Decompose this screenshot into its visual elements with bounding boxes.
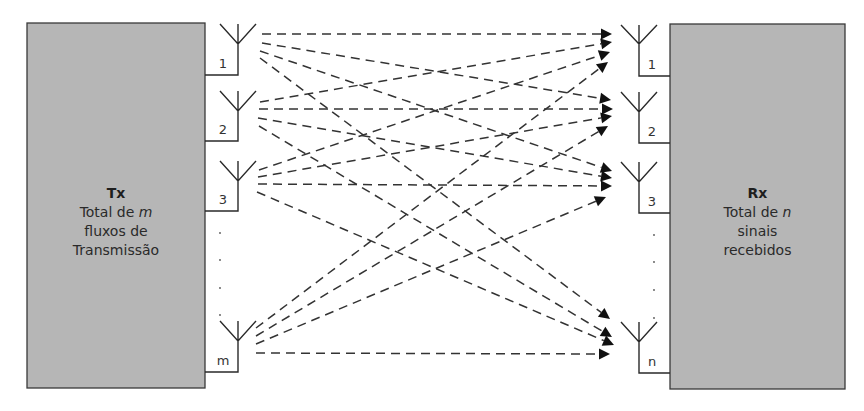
signal-path-txm-rx3: [256, 201, 596, 344]
antenna-label: 1: [648, 57, 656, 72]
signal-path-txm-rxn: [256, 353, 599, 354]
antenna-label: m: [217, 353, 230, 368]
arrowhead-icon: [600, 112, 612, 123]
rx-description-line-3: recebidos: [724, 242, 792, 258]
signal-path-tx3-rxn: [257, 192, 604, 341]
antenna-label: 2: [219, 122, 227, 137]
rx-antenna-n: n: [621, 322, 670, 373]
rx-antenna-1: 1: [621, 25, 670, 76]
tx-antenna-m: m: [205, 321, 256, 372]
rx-description-line-1: Total de n: [723, 204, 792, 220]
signal-path-txm-rx1: [256, 69, 599, 328]
antenna-label: 3: [648, 194, 656, 209]
signal-path-tx3-rx3: [258, 184, 601, 186]
arrowhead-icon: [600, 171, 612, 182]
ellipsis-dot: [653, 261, 655, 263]
arrowhead-icon: [600, 38, 612, 49]
rx-antenna-3: 3: [621, 162, 670, 213]
ellipsis-dot: [653, 289, 655, 291]
tx-antenna-3: 3: [205, 161, 256, 211]
arrowhead-icon: [599, 93, 611, 104]
receiver: Rx Total de n sinais recebidos 123n: [621, 24, 845, 389]
antenna-label: 3: [219, 192, 227, 207]
arrowhead-icon: [599, 348, 610, 359]
ellipsis-dot: [653, 234, 655, 236]
arrowhead-icon: [598, 50, 610, 60]
ellipsis-dot: [219, 314, 221, 316]
rx-description-line-2: sinais: [738, 223, 778, 239]
signal-path-tx1-rx2: [262, 43, 600, 98]
tx-antenna-1: 1: [205, 24, 256, 75]
tx-title: Tx: [107, 185, 126, 201]
arrowhead-icon: [601, 29, 612, 40]
arrowhead-icon: [602, 104, 613, 115]
ellipsis-dot: [219, 259, 221, 261]
antenna-label: n: [648, 354, 656, 369]
signal-path-tx2-rxn: [259, 126, 603, 331]
arrowhead-icon: [596, 62, 608, 73]
mimo-diagram: Tx Total de m fluxos de Transmissão 123m…: [0, 0, 864, 411]
ellipsis-dot: [219, 287, 221, 289]
antenna-icon: [621, 322, 670, 373]
antenna-icon: [621, 92, 670, 143]
ellipsis-dot: [219, 232, 221, 234]
arrowhead-icon: [600, 327, 612, 337]
rx-antenna-2: 2: [621, 92, 670, 143]
antenna-label: 1: [219, 56, 227, 71]
antenna-icon: [205, 91, 256, 141]
arrowhead-icon: [596, 126, 608, 136]
arrowhead-icon: [601, 180, 612, 191]
arrowhead-icon: [598, 308, 610, 319]
tx-description-line-1: Total de m: [79, 204, 153, 220]
antenna-icon: [205, 161, 256, 211]
tx-antenna-2: 2: [205, 91, 256, 141]
antenna-icon: [621, 162, 670, 213]
signal-path-txm-rx2: [256, 132, 599, 336]
tx-antenna-array: 123m: [205, 24, 256, 372]
antenna-icon: [621, 25, 670, 76]
rx-antenna-array: 123n: [621, 25, 670, 373]
antenna-icon: [205, 24, 256, 75]
tx-description-line-3: Transmissão: [72, 242, 159, 258]
arrowhead-icon: [600, 162, 612, 172]
tx-description-line-2: fluxos de: [84, 223, 147, 239]
antenna-label: 2: [648, 124, 656, 139]
rx-title: Rx: [748, 185, 768, 201]
ellipsis-dot: [653, 317, 655, 319]
transmitter: Tx Total de m fluxos de Transmissão 123m: [27, 23, 256, 388]
signal-paths: [256, 34, 604, 354]
antenna-icon: [205, 321, 256, 372]
